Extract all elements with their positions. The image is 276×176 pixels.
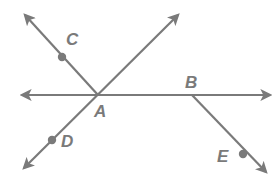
point-d-label: D: [61, 132, 73, 151]
lines-layer: [22, 15, 270, 172]
point-b-label: B: [185, 73, 197, 92]
labels-layer: ABCDE: [61, 30, 229, 166]
points-layer: [48, 53, 247, 158]
point-a-label: A: [93, 102, 106, 121]
geometry-diagram: ABCDE: [0, 0, 276, 176]
point-e-label: E: [217, 147, 229, 166]
point-c-dot: [58, 53, 66, 61]
ray-BE: [192, 95, 266, 172]
point-c-label: C: [66, 30, 79, 49]
point-d-dot: [48, 136, 56, 144]
point-e-dot: [239, 150, 247, 158]
